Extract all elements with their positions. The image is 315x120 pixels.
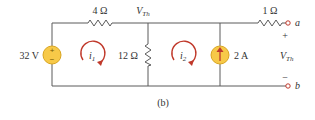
current-source-2a: 2 A [211, 46, 249, 64]
resistor-12-ohm-label: 12 Ω [118, 50, 138, 61]
resistor-1-ohm: 1 Ω [258, 5, 282, 26]
current-source-label: 2 A [234, 50, 249, 61]
mesh-current-i2: i2 [172, 41, 196, 66]
voltage-source-label: 32 V [19, 50, 39, 61]
terminal-a: a [286, 17, 300, 28]
circuit-diagram: 4 Ω VTh 12 Ω 1 Ω + − 32 V 2 A i1 i2 [0, 0, 315, 120]
plus-sign: + [50, 46, 55, 55]
mesh-i2-label: i2 [180, 50, 187, 63]
wires [52, 23, 286, 86]
resistor-4-ohm: 4 Ω [88, 5, 112, 26]
terminal-b-label: b [295, 80, 300, 91]
output-plus-sign: + [282, 30, 288, 41]
figure-label: (b) [157, 97, 169, 109]
mesh-i1-label: i1 [89, 50, 95, 63]
output-vth-label: VTh [280, 50, 294, 63]
arrowhead-icon [97, 60, 103, 66]
resistor-4-ohm-label: 4 Ω [93, 5, 108, 16]
terminal-a-label: a [295, 17, 300, 28]
output-minus-sign: − [282, 72, 288, 83]
node-vth-label: VTh [136, 5, 150, 18]
voltage-source-32v: + − 32 V [19, 46, 61, 64]
arrowhead-icon [188, 60, 194, 66]
resistor-1-ohm-label: 1 Ω [263, 5, 278, 16]
minus-sign: − [50, 55, 55, 64]
terminal-b: b [286, 80, 300, 91]
resistor-12-ohm: 12 Ω [118, 44, 151, 66]
mesh-current-i1: i1 [81, 41, 105, 66]
